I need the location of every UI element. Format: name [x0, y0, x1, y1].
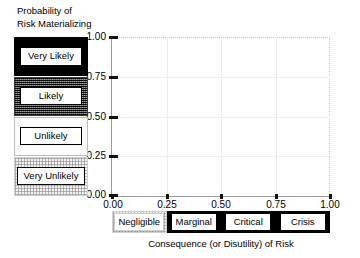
- y-tick-025: [109, 155, 118, 158]
- consequence-category-negligible-label: Negligible: [114, 213, 164, 232]
- y-tick-050: [109, 116, 118, 119]
- probability-category-unlikely[interactable]: Unlikely: [14, 117, 88, 156]
- consequence-category-marginal[interactable]: Marginal: [167, 211, 222, 233]
- x-ticklabel-025: 0.25: [147, 199, 187, 210]
- consequence-category-marginal-label: Marginal: [171, 213, 217, 232]
- probability-category-very-likely[interactable]: Very Likely: [14, 37, 88, 76]
- x-ticklabel-000: 0.00: [93, 199, 133, 210]
- gridline-x-050: [221, 37, 222, 196]
- x-ticklabel-050: 0.50: [201, 199, 241, 210]
- probability-category-very-unlikely-label: Very Unlikely: [17, 167, 85, 186]
- y-tick-100: [109, 36, 118, 39]
- y-axis-title: Probability of Risk Materializing: [17, 4, 117, 30]
- consequence-category-critical-label: Critical: [225, 213, 271, 232]
- probability-category-very-unlikely[interactable]: Very Unlikely: [14, 157, 88, 196]
- consequence-category-crisis[interactable]: Crisis: [276, 211, 331, 233]
- x-axis-title: Consequence (or Disutility) of Risk: [112, 238, 330, 249]
- y-tick-075: [109, 76, 118, 79]
- consequence-category-negligible[interactable]: Negligible: [112, 211, 167, 233]
- risk-matrix-figure: Probability of Risk Materializing 1.00 0…: [0, 0, 360, 258]
- plot-area: [112, 37, 330, 196]
- gridline-x-025: [167, 37, 168, 196]
- gridline-x-075: [276, 37, 277, 196]
- probability-category-very-likely-label: Very Likely: [20, 47, 82, 66]
- probability-category-likely[interactable]: Likely: [14, 77, 88, 116]
- consequence-category-crisis-label: Crisis: [280, 213, 326, 232]
- x-ticklabel-075: 0.75: [256, 199, 296, 210]
- consequence-category-critical[interactable]: Critical: [221, 211, 276, 233]
- probability-category-likely-label: Likely: [20, 87, 82, 106]
- x-ticklabel-100: 1.00: [310, 199, 350, 210]
- probability-category-unlikely-label: Unlikely: [20, 127, 82, 146]
